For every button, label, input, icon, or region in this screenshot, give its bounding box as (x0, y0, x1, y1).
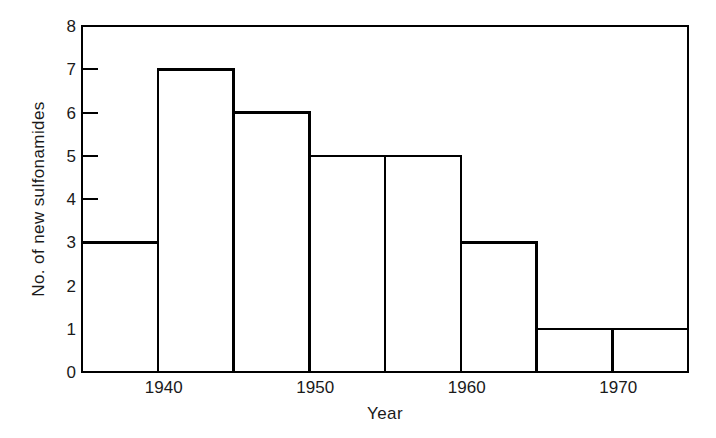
histogram-bar (158, 69, 234, 372)
histogram-bar (234, 113, 310, 373)
histogram-figure: No. of new sulfonamides Year 0 1 2 3 4 5… (0, 0, 716, 438)
histogram-bar (309, 156, 385, 372)
histogram-bar (385, 156, 461, 372)
histogram-bar (612, 329, 688, 372)
histogram-bar (82, 242, 158, 372)
plot-area (0, 0, 716, 438)
histogram-bar (461, 242, 537, 372)
histogram-bar (537, 329, 613, 372)
